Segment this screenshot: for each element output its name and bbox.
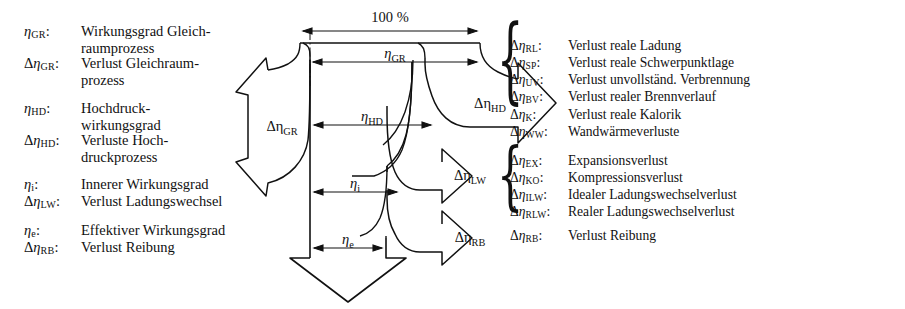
dim-i-arrowhead-right <box>388 189 397 195</box>
colon: : <box>539 228 543 243</box>
label-eta-hd: ηHD <box>361 108 384 127</box>
colon: : <box>540 72 544 87</box>
legend-key: ΔηLW: <box>24 194 81 211</box>
colon: : <box>539 89 543 104</box>
legend-row: ΔηHD: Verluste Hoch- <box>24 133 269 150</box>
d-eta-rb-sub: RB <box>472 237 486 248</box>
legend-row: ΔηGR: Verlust Gleichraum- <box>24 56 269 73</box>
label-100-percent: 100 % <box>371 9 408 25</box>
legend-row: ΔηWW: Wandwärmeverluste <box>510 124 900 141</box>
legend-left: ηGR: Wirkungsgrad Gleich- raumprozess Δη… <box>24 24 269 257</box>
colon: : <box>543 187 547 202</box>
subscript: WW <box>526 130 544 140</box>
subscript: HD <box>41 138 56 149</box>
legend-value: Verlust Reibung <box>81 240 269 255</box>
label-eta-e: ηe <box>342 231 354 250</box>
subscript: SP <box>526 61 537 71</box>
legend-group-i: ηi: Innerer Wirkungsgrad ΔηLW: Verlust L… <box>24 177 269 211</box>
delta-glyph: Δ <box>24 239 33 255</box>
colon: : <box>36 222 40 238</box>
delta-glyph: Δ <box>510 228 519 243</box>
eta-glyph: η <box>519 204 526 219</box>
legend-key: ΔηBV: <box>510 89 568 106</box>
legend-value-cont: prozess <box>24 73 269 88</box>
legend-row: ΔηK: Verlust reale Kalorik <box>510 107 900 124</box>
subscript: GR <box>41 62 55 73</box>
legend-lw-losses: ΔηEX: Expansionsverlust ΔηKO: Kompressio… <box>510 153 900 222</box>
legend-value: Verlust realer Brennverlauf <box>568 89 900 105</box>
diagram-page: 100 % ηGR ηHD ηi ηe ΔηGR <box>0 0 905 309</box>
svg-text:ηe: ηe <box>342 231 354 250</box>
legend-key: ΔηEX: <box>510 153 568 170</box>
delta-glyph: Δ <box>510 72 519 87</box>
subscript: ILW <box>526 193 544 203</box>
eta-e-base: η <box>342 231 349 247</box>
svg-text:ηHD: ηHD <box>361 108 384 127</box>
colon: : <box>56 132 60 148</box>
eta-glyph: η <box>33 55 40 71</box>
legend-key: ΔηUV: <box>510 72 568 89</box>
subscript: RB <box>526 234 539 244</box>
eta-glyph: η <box>33 239 40 255</box>
legend-value-cont: wirkungsgrad <box>24 118 269 133</box>
colon: : <box>547 204 551 219</box>
legend-value: Verluste Hoch- <box>81 133 269 148</box>
legend-key: ΔηRB: <box>24 240 81 257</box>
dimension-arrows <box>303 28 477 251</box>
legend-value: Verlust reale Ladung <box>568 38 900 54</box>
subscript: UV <box>526 78 540 88</box>
delta-glyph: Δ <box>510 170 519 185</box>
legend-value: Effektiver Wirkungsgrad <box>81 223 269 238</box>
legend-row: ηGR: Wirkungsgrad Gleich- <box>24 24 269 41</box>
svg-text:ηi: ηi <box>350 175 360 194</box>
dim-hd-arrowhead-left <box>314 122 323 128</box>
legend-key: ΔηRLW: <box>510 204 568 221</box>
eta-glyph: η <box>519 38 526 53</box>
legend-rb-loss: ΔηRB: Verlust Reibung <box>510 228 900 245</box>
label-eta-gr: ηGR <box>384 45 406 64</box>
legend-group-e: ηe: Effektiver Wirkungsgrad ΔηRB: Verlus… <box>24 223 269 257</box>
eta-glyph: η <box>519 187 526 202</box>
legend-row: ΔηRB: Verlust Reibung <box>24 240 269 257</box>
d-eta-rb-base: Δη <box>455 229 472 245</box>
legend-group-gr: ηGR: Wirkungsgrad Gleich- raumprozess Δη… <box>24 24 269 89</box>
legend-key: ηGR: <box>24 24 81 41</box>
legend-key: ΔηKO: <box>510 170 568 187</box>
legend-value: Wirkungsgrad Gleich- <box>81 24 269 39</box>
legend-key: ηHD: <box>24 101 81 118</box>
loss-arrow-rb-outline <box>387 190 472 265</box>
column-right-wall-top <box>418 43 425 58</box>
inner-wall-hd-to-i <box>387 62 412 166</box>
eta-hd-sub: HD <box>368 116 383 127</box>
legend-key: ηe: <box>24 223 81 240</box>
legend-value: Verlust Reibung <box>568 228 900 244</box>
delta-glyph: Δ <box>510 204 519 219</box>
eta-glyph: η <box>33 193 40 209</box>
colon: : <box>536 55 540 70</box>
eta-glyph: η <box>519 89 526 104</box>
legend-value: Hochdruck- <box>81 101 269 116</box>
legend-row: ΔηRLW: Realer Ladungswechselverlust <box>510 204 900 221</box>
delta-glyph: Δ <box>510 153 519 168</box>
legend-value: Verlust unvollständ. Verbrennung <box>568 72 900 88</box>
dim-100-arrowhead-right <box>468 28 477 34</box>
svg-text:ΔηRB: ΔηRB <box>455 229 486 248</box>
legend-value: Expansionsverlust <box>568 153 900 169</box>
subscript: K <box>526 113 533 123</box>
d-eta-lw-base: Δη <box>454 167 471 183</box>
svg-text:ΔηGR: ΔηGR <box>266 118 297 137</box>
dim-gr-arrowhead-left <box>313 59 322 65</box>
subscript: EX <box>526 159 539 169</box>
delta-glyph: Δ <box>510 38 519 53</box>
legend-row: ΔηRL: Verlust reale Ladung <box>510 38 900 55</box>
colon: : <box>54 239 58 255</box>
legend-value: Verlust reale Kalorik <box>568 107 900 123</box>
subscript: HD <box>31 106 46 117</box>
delta-glyph: Δ <box>510 187 519 202</box>
d-eta-lw-sub: LW <box>471 175 487 186</box>
eta-e-sub: e <box>349 239 354 250</box>
colon: : <box>533 107 537 122</box>
delta-glyph: Δ <box>510 89 519 104</box>
subscript: LW <box>41 200 56 211</box>
subscript: RB <box>41 246 55 257</box>
